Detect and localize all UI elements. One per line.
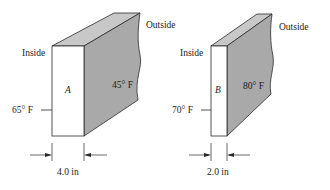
arrow-right-icon (204, 153, 211, 157)
wall-a-thickness: 4.0 in (57, 167, 79, 177)
arrow-left-icon (84, 153, 91, 157)
wall-a-inside-label: Inside (22, 48, 45, 58)
arrow-left-icon (227, 153, 234, 157)
wall-b-inside-temp: 70° F (172, 105, 193, 115)
heat-transfer-diagram: Inside Outside A 45° F 65° F 4.0 in Insi… (0, 0, 330, 190)
wall-b-label: B (215, 85, 221, 95)
wall-b-outside-label: Outside (279, 22, 309, 32)
wall-a: Inside Outside A 45° F 65° F 4.0 in (12, 13, 176, 177)
wall-b: Inside Outside B 80° F 70° F 2.0 in (172, 14, 309, 177)
wall-b-thickness: 2.0 in (207, 167, 229, 177)
wall-b-outside-temp: 80° F (243, 81, 264, 91)
wall-a-outside-label: Outside (146, 20, 176, 30)
wall-b-inside-label: Inside (180, 48, 203, 58)
wall-a-outside-temp: 45° F (112, 80, 133, 90)
arrow-right-icon (45, 153, 52, 157)
wall-a-label: A (64, 85, 71, 95)
wall-a-inside-temp: 65° F (12, 105, 33, 115)
wall-a-dimension: 4.0 in (30, 143, 107, 177)
wall-b-dimension: 2.0 in (189, 143, 250, 177)
